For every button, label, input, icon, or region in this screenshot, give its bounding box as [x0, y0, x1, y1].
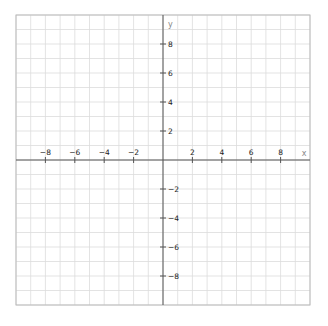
x-tick-label: 8 [278, 148, 283, 157]
x-tick-label: 2 [190, 148, 195, 157]
x-tick-labels: −8−6−4−22468 [40, 148, 283, 157]
x-tick-label: −6 [69, 148, 80, 157]
x-axis-label: x [302, 149, 307, 158]
x-tick-label: −4 [99, 148, 110, 157]
x-tick-label: 6 [249, 148, 254, 157]
y-tick-label: 2 [168, 127, 173, 136]
y-axis-label: y [168, 20, 173, 29]
x-tick-label: 4 [219, 148, 224, 157]
y-tick-label: 4 [168, 98, 173, 107]
coordinate-plane: −8−6−4−22468 8642−2−4−6−8 x y [0, 0, 328, 326]
y-tick-label: −8 [168, 272, 179, 281]
y-tick-label: −4 [168, 214, 179, 223]
x-tick-label: −8 [40, 148, 51, 157]
y-tick-label: 6 [168, 69, 173, 78]
y-tick-label: −6 [168, 243, 179, 252]
y-tick-label: −2 [168, 185, 179, 194]
x-tick-label: −2 [128, 148, 139, 157]
y-tick-label: 8 [168, 40, 173, 49]
